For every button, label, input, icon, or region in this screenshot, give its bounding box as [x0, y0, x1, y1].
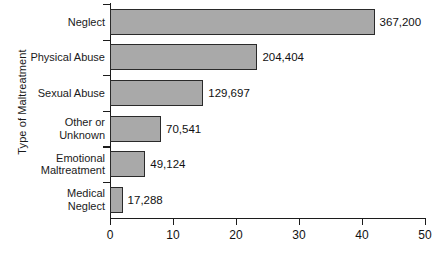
bar-value-label: 367,200 [375, 16, 422, 28]
bar [110, 80, 203, 106]
bar-row: Physical Abuse204,404 [110, 40, 425, 76]
bar-row: Sexual Abuse129,697 [110, 75, 425, 111]
x-axis-tick-label: 50 [418, 228, 431, 242]
category-label-line: Unknown [59, 129, 105, 142]
category-label-line: Emotional [56, 152, 105, 165]
bar [110, 9, 375, 35]
category-label: EmotionalMaltreatment [0, 146, 105, 182]
bar-value-label: 49,124 [145, 158, 185, 170]
category-label-line: Physical Abuse [30, 51, 105, 64]
x-axis-tick [299, 218, 300, 225]
category-label-line: Neglect [68, 16, 105, 29]
bar-value-label: 204,404 [257, 51, 304, 63]
bar [110, 44, 257, 70]
x-axis-tick [362, 218, 363, 225]
bar-row: Neglect367,200 [110, 4, 425, 40]
category-label-line: Other or [65, 116, 105, 129]
category-label-line: Maltreatment [41, 164, 105, 177]
bar [110, 116, 161, 142]
category-label-line: Neglect [68, 200, 105, 213]
bar [110, 187, 123, 213]
x-axis-tick-label: 20 [229, 228, 242, 242]
category-label-line: Sexual Abuse [38, 87, 105, 100]
x-axis-tick [173, 218, 174, 225]
category-label: Physical Abuse [0, 40, 105, 76]
bar-value-label: 70,541 [161, 123, 201, 135]
bar-value-label: 129,697 [203, 87, 250, 99]
x-axis-tick-label: 0 [107, 228, 114, 242]
bar-row: EmotionalMaltreatment49,124 [110, 146, 425, 182]
x-axis-tick [110, 218, 111, 225]
bar-chart: Type of Maltreatment Neglect367,200Physi… [0, 0, 442, 259]
bar-value-label: 17,288 [123, 194, 163, 206]
x-axis-tick-label: 30 [292, 228, 305, 242]
category-label: Sexual Abuse [0, 75, 105, 111]
category-label: Neglect [0, 4, 105, 40]
x-axis-tick-label: 40 [355, 228, 368, 242]
bar-row: Other orUnknown70,541 [110, 111, 425, 147]
x-axis-tick [425, 218, 426, 225]
bar-row: MedicalNeglect17,288 [110, 182, 425, 218]
x-axis-tick-label: 10 [166, 228, 179, 242]
category-label: MedicalNeglect [0, 182, 105, 218]
category-label: Other orUnknown [0, 111, 105, 147]
bar [110, 151, 145, 177]
category-label-line: Medical [67, 187, 105, 200]
x-axis-line [110, 218, 426, 219]
x-axis-tick [236, 218, 237, 225]
